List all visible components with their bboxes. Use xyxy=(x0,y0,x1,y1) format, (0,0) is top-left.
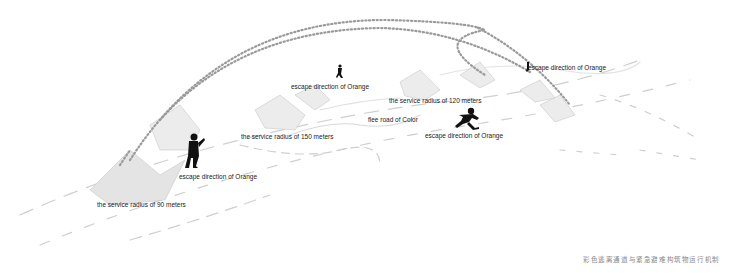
label-flee-road: flee road of Color xyxy=(368,116,418,123)
label-escape-direction-2: escape direction of Orange xyxy=(528,64,606,71)
label-service-radius-150: the service radius of 150 meters xyxy=(241,133,334,140)
diagram-caption: 彩色逃离通道与紧急避难构筑物运行机制 xyxy=(583,254,720,264)
runner-figure-right xyxy=(455,108,479,130)
escape-diagram-canvas xyxy=(0,0,753,273)
label-escape-direction-4: escape direction of Orange xyxy=(179,173,257,180)
label-escape-direction-1: escape direction of Orange xyxy=(291,83,369,90)
runner-figure-upper xyxy=(336,64,343,78)
label-service-radius-120: the service radius of 120 meters xyxy=(389,97,482,104)
label-service-radius-90: the service radius of 90 meters xyxy=(97,201,186,208)
label-escape-direction-3: escape direction of Orange xyxy=(425,132,503,139)
